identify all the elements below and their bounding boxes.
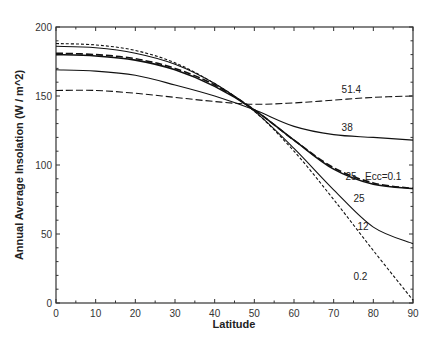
x-tick-label: 0 — [53, 308, 59, 319]
x-axis-title: Latitude — [213, 318, 256, 330]
insolation-chart: 0102030405060708090 050100150200 51.4382… — [0, 0, 435, 346]
x-tick-label: 60 — [288, 308, 300, 319]
plot-border — [56, 27, 413, 303]
y-tick-label: 100 — [35, 160, 52, 171]
y-axis-title: Annual Average Insolation (W / m^2) — [13, 70, 25, 261]
curve-label: 0.2 — [354, 271, 368, 282]
plot-frame — [56, 27, 413, 303]
curve-label: 12 — [357, 221, 369, 232]
y-tick-label: 150 — [35, 91, 52, 102]
y-axis-ticks: 050100150200 — [35, 22, 413, 309]
y-tick-label: 50 — [41, 229, 53, 240]
x-tick-label: 90 — [407, 308, 419, 319]
curve-12 — [56, 46, 413, 243]
curve-label: 38 — [342, 122, 354, 133]
x-tick-label: 20 — [130, 308, 142, 319]
curve-38 — [56, 70, 413, 140]
y-tick-label: 200 — [35, 22, 52, 33]
x-tick-label: 70 — [328, 308, 340, 319]
x-tick-label: 80 — [368, 308, 380, 319]
curve-labels: 51.43825 Ecc=0.125120.2 — [342, 84, 402, 281]
curve-25-ecc-0-1 — [56, 53, 413, 188]
curve-25 — [56, 55, 413, 189]
curve-label: 51.4 — [342, 84, 362, 95]
x-tick-label: 30 — [169, 308, 181, 319]
curve-label: 25 — [354, 193, 366, 204]
curve-label: 25 Ecc=0.1 — [346, 171, 402, 182]
x-tick-label: 10 — [90, 308, 102, 319]
y-tick-label: 0 — [46, 298, 52, 309]
